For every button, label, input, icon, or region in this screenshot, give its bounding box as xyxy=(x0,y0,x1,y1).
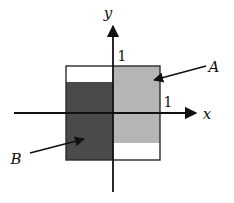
region-b-shading xyxy=(66,82,113,160)
x-axis-tick-one: 1 xyxy=(164,94,173,110)
region-diagram: y x 1 1 A B xyxy=(0,0,234,203)
x-axis-label: x xyxy=(203,105,212,123)
callout-b-label: B xyxy=(9,150,21,168)
callout-a-label: A xyxy=(207,58,220,76)
y-axis-label: y xyxy=(103,4,113,22)
region-a-shading xyxy=(113,66,160,143)
callout-a-arrow xyxy=(154,66,206,80)
y-axis-tick-one: 1 xyxy=(118,48,127,64)
figure-container: y x 1 1 A B xyxy=(0,0,234,203)
